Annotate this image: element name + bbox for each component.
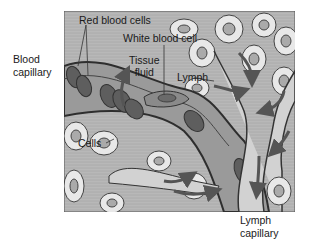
label-white-blood-cell: White blood cell — [123, 32, 197, 44]
tissue-diagram: Red blood cells White blood cell Tissue … — [64, 11, 295, 212]
label-line: capillary — [240, 227, 279, 240]
label-tissue-fluid: Tissue fluid — [129, 54, 160, 78]
label-cells: Cells — [78, 137, 101, 149]
external-label-blood-capillary: Blood capillary — [13, 53, 52, 79]
label-line: Tissue — [129, 54, 160, 66]
label-line: fluid — [129, 66, 160, 78]
label-red-blood-cells: Red blood cells — [79, 14, 151, 26]
label-line: Blood — [13, 53, 52, 66]
external-label-lymph-capillary: Lymph capillary — [240, 214, 279, 240]
label-line: Lymph — [240, 214, 279, 227]
label-lymph: Lymph — [177, 71, 208, 83]
label-line: capillary — [13, 66, 52, 79]
